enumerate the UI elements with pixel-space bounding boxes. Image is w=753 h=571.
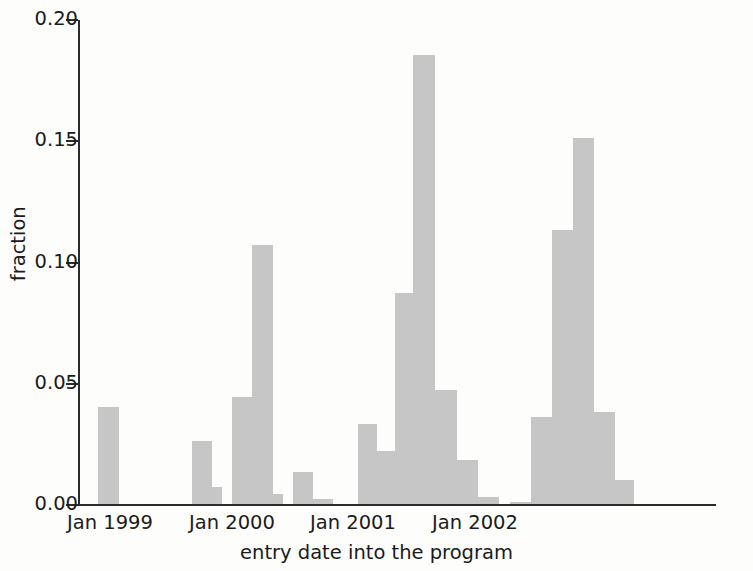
bar: [457, 460, 478, 504]
bar: [478, 497, 499, 504]
bar: [552, 230, 573, 504]
bar: [313, 499, 333, 504]
bar: [252, 245, 273, 504]
bar: [232, 397, 252, 504]
bar: [395, 293, 413, 504]
bar: [615, 480, 634, 504]
x-axis-title: entry date into the program: [0, 543, 753, 563]
bar: [377, 451, 395, 504]
bar: [413, 55, 435, 504]
bar-series: [0, 0, 753, 571]
bar: [594, 412, 615, 504]
x-tick-label-0: Jan 1999: [50, 513, 170, 533]
bar: [273, 494, 283, 504]
bar: [192, 441, 212, 504]
bar: [510, 502, 531, 504]
bar: [531, 417, 552, 504]
bar: [435, 390, 457, 504]
x-tick-label-2: Jan 2001: [293, 513, 413, 533]
bar: [358, 424, 377, 504]
bar: [573, 138, 594, 504]
bar: [293, 472, 313, 504]
bar: [98, 407, 119, 504]
x-tick-label-3: Jan 2002: [415, 513, 535, 533]
bar: [212, 487, 222, 504]
histogram-figure: 0.000.050.100.150.20 fraction Jan 1999Ja…: [0, 0, 753, 571]
x-tick-label-1: Jan 2000: [172, 513, 292, 533]
